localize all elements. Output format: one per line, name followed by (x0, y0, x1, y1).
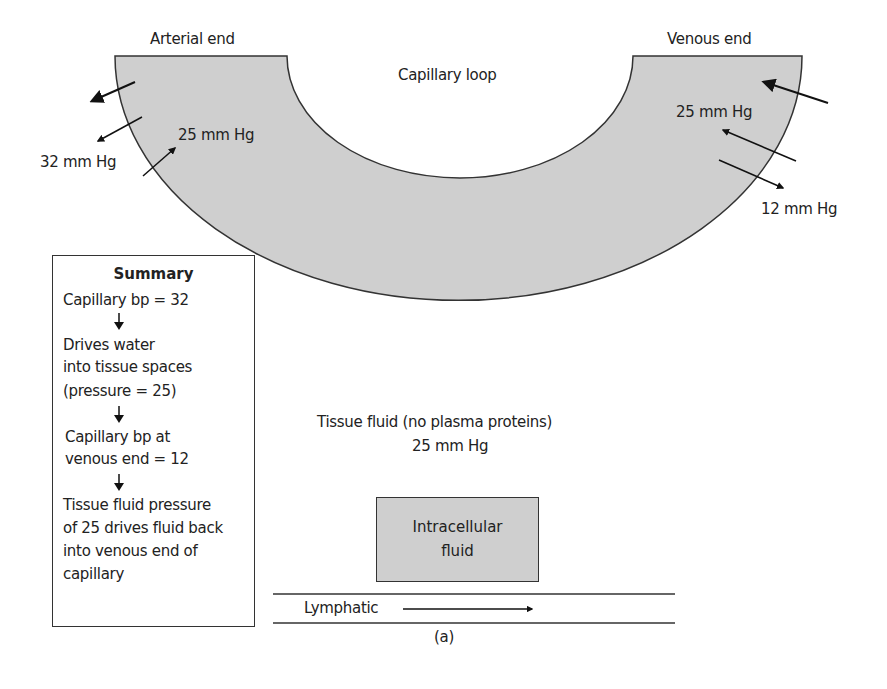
intracellular-label-line2: fluid (377, 539, 538, 563)
lymphatic-label: Lymphatic (304, 599, 378, 617)
summary-line: Drives water (63, 336, 155, 354)
summary-line: of 25 drives fluid back (63, 519, 223, 537)
down-arrow-icon (113, 313, 125, 331)
summary-line: capillary (63, 565, 124, 583)
arterial-end-label: Arterial end (150, 30, 235, 48)
summary-line: venous end = 12 (65, 450, 189, 468)
tissue-fluid-pressure-label: 25 mm Hg (412, 437, 488, 455)
summary-title: Summary (53, 265, 254, 283)
summary-line: Capillary bp at (65, 428, 170, 446)
down-arrow-icon (113, 474, 125, 492)
capillary-loop-label: Capillary loop (398, 66, 497, 84)
summary-line: Tissue fluid pressure (63, 496, 211, 514)
venous-end-label: Venous end (667, 30, 751, 48)
summary-line: Capillary bp = 32 (63, 291, 189, 309)
tissue-fluid-label: Tissue fluid (no plasma proteins) (317, 413, 552, 431)
intracellular-label-line1: Intracellular (377, 515, 538, 539)
arterial-inflow-pressure-label: 25 mm Hg (178, 126, 254, 144)
intracellular-fluid-box: Intracellular fluid (376, 497, 539, 582)
summary-line: (pressure = 25) (63, 382, 176, 400)
down-arrow-icon (113, 406, 125, 424)
venous-outflow-pressure-label: 12 mm Hg (761, 200, 837, 218)
summary-line: into tissue spaces (63, 358, 192, 376)
venous-inflow-pressure-label: 25 mm Hg (676, 103, 752, 121)
figure-caption: (a) (434, 628, 454, 646)
arterial-outflow-pressure-label: 32 mm Hg (40, 153, 116, 171)
summary-line: into venous end of (63, 542, 197, 560)
summary-box: Summary Capillary bp = 32 Drives water i… (52, 255, 255, 627)
